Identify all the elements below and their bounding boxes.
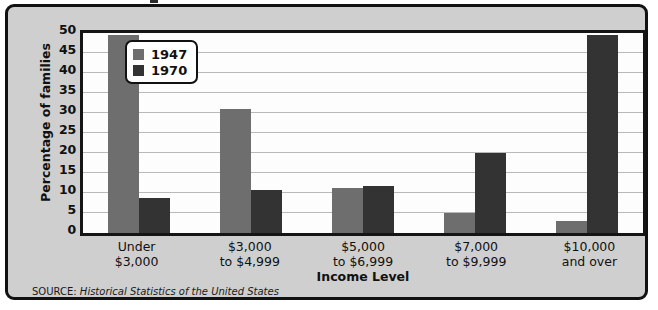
y-axis-tick-label: 0 [68, 224, 77, 237]
y-axis-tick-label: 20 [59, 144, 76, 157]
bar-1970-1 [139, 198, 170, 233]
source-title: Historical Statistics of the United Stat… [80, 286, 279, 297]
legend-swatch-1947-icon [133, 49, 144, 60]
x-axis-tick-label-line: Under [80, 239, 193, 254]
legend-swatch-1970-icon [133, 65, 144, 76]
bar-group [419, 33, 531, 233]
bar-1947-3 [332, 188, 363, 233]
bar-1947-2 [220, 109, 251, 233]
x-axis-tick-label-line: $5,000 [306, 239, 419, 254]
x-axis-tick-label-line: to $6,999 [306, 254, 419, 269]
y-axis-tick-label: 30 [59, 104, 76, 117]
y-axis-tick-label: 15 [59, 164, 76, 177]
x-axis-tick-label: $10,000and over [533, 239, 646, 270]
bar-1970-2 [251, 190, 282, 233]
y-axis-tick-label: 5 [68, 204, 77, 217]
legend-label-1947: 1947 [151, 48, 187, 61]
x-axis-tick-label-line: to $4,999 [193, 254, 306, 269]
chart-figure: Percentage of families 05101520253035404… [0, 0, 658, 310]
x-axis-tick-labels: Under$3,000$3,000to $4,999$5,000to $6,99… [80, 239, 646, 270]
bar-1947-5 [556, 221, 587, 233]
bar-1947-4 [444, 213, 475, 233]
source-note: SOURCE: Historical Statistics of the Uni… [32, 286, 279, 297]
x-axis-tick-label: $5,000to $6,999 [306, 239, 419, 270]
legend-entry-1970: 1970 [133, 62, 187, 78]
y-axis-tick-labels: 05101520253035404550 [38, 30, 76, 230]
bar-1970-4 [475, 153, 506, 233]
y-axis-tick-label: 35 [59, 84, 76, 97]
x-axis-tick-label-line: to $9,999 [420, 254, 533, 269]
x-axis-title: Income Level [80, 269, 646, 284]
legend-label-1970: 1970 [151, 64, 187, 77]
y-axis-tick-label: 10 [59, 184, 76, 197]
bar-group [195, 33, 307, 233]
y-axis-tick-label: 25 [59, 124, 76, 137]
bar-group [307, 33, 419, 233]
x-axis-tick-label-line: and over [533, 254, 646, 269]
figure-outer-frame: Percentage of families 05101520253035404… [5, 4, 648, 300]
x-axis-tick-label-line: $7,000 [420, 239, 533, 254]
bar-1970-5 [587, 35, 618, 233]
scan-artifact-strip [0, 0, 658, 3]
x-axis-tick-label-line: $10,000 [533, 239, 646, 254]
x-axis-tick-label-line: $3,000 [80, 254, 193, 269]
bar-1970-3 [363, 186, 394, 233]
legend-entry-1947: 1947 [133, 46, 187, 62]
x-axis-tick-label: $7,000to $9,999 [420, 239, 533, 270]
source-label: SOURCE: [32, 286, 77, 297]
chart-legend: 1947 1970 [125, 40, 198, 84]
y-axis-tick-label: 50 [59, 24, 76, 37]
y-axis-tick-label: 40 [59, 64, 76, 77]
x-axis-tick-label: $3,000to $4,999 [193, 239, 306, 270]
x-axis-tick-label-line: $3,000 [193, 239, 306, 254]
x-axis-tick-label: Under$3,000 [80, 239, 193, 270]
bar-group [531, 33, 643, 233]
y-axis-tick-label: 45 [59, 44, 76, 57]
